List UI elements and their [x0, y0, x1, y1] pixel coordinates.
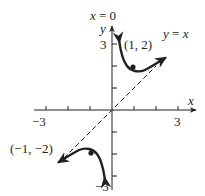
lower-branch-curve — [59, 149, 105, 179]
point-lower-dot — [88, 150, 93, 155]
slant-asymptote-label: y = x — [161, 26, 189, 41]
slant-asymptote-line — [64, 66, 156, 158]
y-min-tick-label: −3 — [95, 179, 109, 194]
y-max-tick-label: 3 — [100, 37, 107, 52]
point-upper-label: (1, 2) — [124, 37, 152, 52]
point-lower-label: (−1, −2) — [10, 141, 53, 156]
x-min-tick-label: −3 — [32, 114, 46, 129]
x-axis-label: x — [187, 93, 194, 108]
point-upper-dot — [130, 64, 135, 69]
x-max-tick-label: 3 — [174, 114, 181, 129]
function-graph: x = 0 y 3 (1, 2) y = x x −3 3 (−1, −2) −… — [0, 0, 205, 196]
y-axis-label: y — [98, 21, 106, 36]
